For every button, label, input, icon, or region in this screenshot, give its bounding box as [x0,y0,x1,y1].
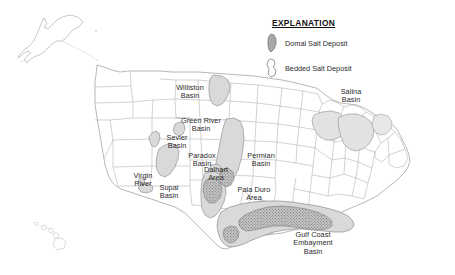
legend-label-bedded-salt: Bedded Salt Deposit [285,64,352,73]
map-label-williston-basin: Williston Basin [166,84,214,101]
hawaii-outline [34,222,66,250]
legend-item-bedded-salt: Bedded Salt Deposit [264,58,404,78]
legend-item-domal-salt: Domal Salt Deposit [264,33,404,53]
map-label-palo-duro-area: Pala Duro Area [228,186,280,203]
map-label-salina-basin: Salina Basin [330,88,372,105]
legend-title: EXPLANATION [272,18,404,28]
salt-deposits-map-figure: EXPLANATION Domal Salt Deposit Bedded Sa… [0,0,455,275]
map-label-green-river-basin: Green River Basin [173,117,229,134]
legend-label-domal-salt: Domal Salt Deposit [285,39,347,48]
map-label-supai-basin: Supai Basin [152,184,186,201]
map-label-sevier-basin: Sevier Basin [159,134,195,151]
legend: EXPLANATION Domal Salt Deposit Bedded Sa… [264,18,404,78]
bedded-salt-swatch-icon [264,58,280,78]
map-label-permian-basin: Permian Basin [239,152,283,169]
alaska-outline [18,15,99,64]
domal-salt-swatch-icon [264,33,280,53]
map-label-gulf-coast-embayment-basin: Gulf Coast Embayment Basin [281,231,345,256]
map-label-dalhart-area: Dalhart Area [197,166,235,183]
